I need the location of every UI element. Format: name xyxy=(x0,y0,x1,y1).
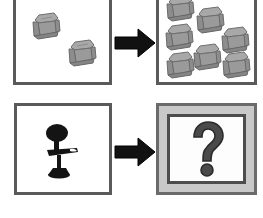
armchair-icon xyxy=(219,50,253,80)
panel-source-multi xyxy=(13,0,112,85)
question-mark-icon xyxy=(186,120,228,178)
armchair-icon xyxy=(65,38,99,68)
armchair-icon xyxy=(163,0,197,23)
unknown-inner-box xyxy=(167,114,246,184)
panel-source-single-content xyxy=(17,106,109,192)
panel-source-multi-content xyxy=(16,0,109,82)
panel-result-unknown xyxy=(156,103,257,195)
armchair-icon xyxy=(163,50,197,80)
question-mark-wrap xyxy=(170,117,243,181)
panel-result-many xyxy=(156,0,257,85)
arrow-right-icon xyxy=(114,136,156,168)
panel-source-single xyxy=(14,103,112,195)
panel-result-many-content xyxy=(159,0,254,82)
armchair-icon xyxy=(29,11,63,41)
arrow-right-icon xyxy=(114,27,156,59)
office-chair-icon xyxy=(40,118,86,180)
diagram-canvas xyxy=(0,0,263,218)
